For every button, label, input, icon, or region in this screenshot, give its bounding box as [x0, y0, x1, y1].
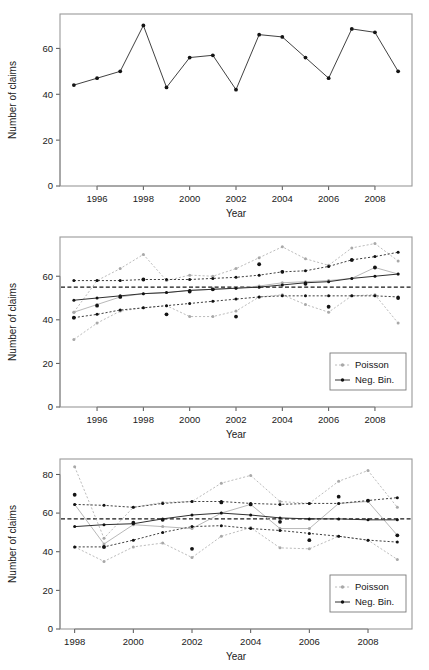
data-point: [373, 266, 377, 270]
data-point: [279, 546, 282, 549]
data-point: [72, 279, 75, 282]
data-point: [249, 514, 252, 517]
data-point: [95, 304, 99, 308]
data-point: [304, 282, 308, 286]
data-point: [165, 278, 168, 281]
x-tick-label-2008: 2008: [364, 193, 385, 204]
x-tick-label-2004: 2004: [240, 636, 261, 647]
x-tick-label-2002: 2002: [181, 636, 202, 647]
data-point: [73, 465, 76, 468]
y-tick-label-20: 20: [42, 585, 53, 596]
x-tick-label-2008: 2008: [357, 636, 378, 647]
y-tick-label-60: 60: [42, 507, 53, 518]
data-point: [103, 504, 106, 507]
data-point: [73, 545, 76, 548]
data-point: [211, 53, 215, 57]
x-tick-label-1996: 1996: [86, 193, 107, 204]
x-tick-label-2006: 2006: [299, 636, 320, 647]
data-point: [96, 322, 99, 325]
x-tick-label-2000: 2000: [123, 636, 144, 647]
data-point: [367, 539, 370, 542]
data-point: [165, 304, 168, 307]
x-tick-label-2008: 2008: [364, 414, 385, 425]
data-point: [327, 311, 330, 314]
data-point: [396, 506, 399, 509]
data-point: [190, 547, 194, 551]
x-tick-label-1998: 1998: [133, 193, 154, 204]
legend-item-poisson-swatch-marker: [341, 585, 344, 588]
x-axis-title: Year: [226, 208, 247, 219]
data-point: [337, 480, 340, 483]
x-tick-label-2002: 2002: [225, 414, 246, 425]
x-tick-label-1996: 1996: [86, 414, 107, 425]
data-point: [396, 558, 399, 561]
panel-1-canvas: 02040601996199820002002200420062008YearN…: [0, 0, 429, 225]
legend-item-poisson-label: Poisson: [355, 359, 389, 370]
data-point: [373, 294, 376, 297]
x-tick-label-1998: 1998: [64, 636, 85, 647]
data-point: [280, 270, 284, 274]
data-point: [103, 560, 106, 563]
legend-item-neg-bin-swatch-marker: [341, 600, 344, 603]
figure-root: 02040601996199820002002200420062008YearN…: [0, 0, 429, 670]
data-point: [188, 278, 191, 281]
data-point: [72, 311, 75, 314]
x-axis-title: Year: [226, 429, 247, 440]
data-point: [304, 56, 308, 60]
data-point: [142, 292, 145, 295]
data-point: [327, 294, 330, 297]
x-tick-label-2000: 2000: [179, 414, 200, 425]
x-tick-label-2006: 2006: [318, 193, 339, 204]
data-point: [367, 518, 370, 521]
chart-panel-subset-period-fit: 020406080199820002002200420062008YearNum…: [0, 447, 429, 670]
data-point: [119, 267, 122, 270]
data-point: [161, 518, 165, 522]
data-point: [281, 294, 284, 297]
y-tick-label-0: 0: [48, 623, 53, 634]
panel-2-canvas: 02040601996199820002002200420062008YearN…: [0, 225, 429, 447]
data-point: [397, 273, 400, 276]
y-tick-label-20: 20: [42, 358, 53, 369]
data-point: [350, 294, 353, 297]
data-point: [131, 521, 135, 525]
data-point: [327, 265, 330, 268]
data-point: [165, 291, 168, 294]
data-point: [279, 516, 282, 519]
series-line-2: [75, 528, 398, 562]
data-point: [211, 277, 214, 280]
x-tick-label-2006: 2006: [318, 414, 339, 425]
data-point: [73, 503, 76, 506]
data-point: [191, 514, 194, 517]
data-point: [161, 531, 164, 534]
data-point: [373, 275, 376, 278]
plot-frame: [60, 14, 412, 186]
data-point: [119, 279, 122, 282]
data-point: [142, 253, 145, 256]
data-point: [72, 83, 76, 87]
x-tick-label-2000: 2000: [179, 193, 200, 204]
x-tick-label-2002: 2002: [225, 193, 246, 204]
data-point: [337, 517, 340, 520]
data-point: [235, 298, 238, 301]
data-point: [235, 287, 238, 290]
data-point: [165, 85, 169, 89]
data-point: [373, 30, 377, 34]
data-point: [234, 88, 238, 92]
data-point: [73, 493, 77, 497]
chart-panel-observed-series: 02040601996199820002002200420062008YearN…: [0, 0, 429, 225]
data-point: [308, 527, 311, 530]
data-point: [72, 299, 75, 302]
legend-item-neg-bin-label: Neg. Bin.: [355, 374, 394, 385]
data-point: [258, 295, 261, 298]
data-point: [350, 277, 353, 280]
legend: PoissonNeg. Bin.: [330, 353, 406, 390]
series-line-4: [75, 513, 398, 527]
data-point: [72, 338, 75, 341]
data-point: [188, 274, 191, 277]
data-point: [396, 496, 399, 499]
data-point: [281, 245, 284, 248]
data-point: [234, 315, 238, 319]
data-point: [304, 269, 307, 272]
data-point: [211, 300, 214, 303]
data-point: [279, 500, 282, 503]
